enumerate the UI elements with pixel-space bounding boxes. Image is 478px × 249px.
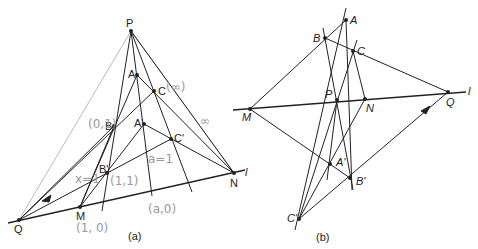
label-b-C: C bbox=[357, 45, 365, 57]
annotation-bp-coord: (1,1) bbox=[110, 174, 138, 188]
caption-a: (a) bbox=[128, 230, 141, 242]
label-b-line-l: l bbox=[468, 85, 471, 97]
figure-b bbox=[233, 8, 466, 230]
label-b-M: M bbox=[242, 111, 252, 123]
diagram-canvas: P A C B A' C' B' N M Q l (∞) (0,1) (1,1)… bbox=[0, 0, 478, 249]
annotation-a-eq-1: a=1 bbox=[148, 152, 173, 166]
label-b-N: N bbox=[366, 102, 374, 114]
label-b-B-prime: B' bbox=[356, 175, 366, 187]
annotation-b-coord: (0,1) bbox=[88, 117, 116, 131]
annotation-a-zero: (a,0) bbox=[148, 202, 176, 216]
annotation-x-eq-1: x=1 bbox=[75, 172, 100, 186]
label-a-A-prime: A' bbox=[134, 117, 143, 129]
annotation-m-coord: (1, 0) bbox=[76, 221, 108, 235]
label-b-C-prime: C' bbox=[287, 212, 298, 224]
label-b-A-prime: A' bbox=[335, 156, 346, 168]
label-b-A: A bbox=[349, 14, 357, 26]
label-a-P: P bbox=[126, 17, 133, 29]
label-a-C: C bbox=[158, 85, 166, 97]
label-a-N: N bbox=[230, 177, 238, 189]
label-a-Q: Q bbox=[14, 223, 23, 235]
annotation-infinity: ∞ bbox=[200, 114, 210, 128]
label-a-A: A bbox=[128, 68, 136, 80]
annotation-c-infinity: (∞) bbox=[166, 80, 185, 94]
label-a-line-l: l bbox=[245, 166, 248, 178]
label-a-B-prime: B' bbox=[99, 163, 108, 175]
label-a-C-prime: C' bbox=[174, 132, 184, 144]
label-b-B: B bbox=[313, 32, 320, 44]
label-b-Q: Q bbox=[446, 96, 455, 108]
caption-b: (b) bbox=[316, 231, 329, 243]
label-b-P: P bbox=[325, 88, 333, 100]
